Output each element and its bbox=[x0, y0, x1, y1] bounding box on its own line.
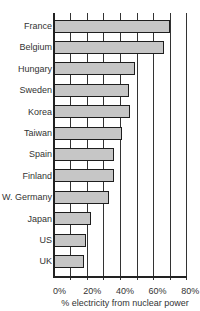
bar-spain bbox=[54, 148, 114, 161]
category-label: Spain bbox=[29, 149, 52, 159]
x-axis-title: % electricity from nuclear power bbox=[60, 298, 190, 308]
bar-belgium bbox=[54, 41, 164, 54]
category-label: UK bbox=[39, 256, 52, 266]
x-tick-label: 0% bbox=[53, 286, 66, 296]
bar-japan bbox=[54, 212, 91, 225]
category-label: Sweden bbox=[19, 85, 52, 95]
bar-france bbox=[54, 20, 170, 33]
category-label: W. Germany bbox=[2, 192, 52, 202]
category-label: Hungary bbox=[18, 64, 52, 74]
x-tick-label: 20% bbox=[83, 286, 101, 296]
bar-w-germany bbox=[54, 191, 109, 204]
bar-uk bbox=[54, 255, 84, 268]
x-axis-line bbox=[53, 276, 187, 278]
category-label: Japan bbox=[27, 214, 52, 224]
x-tick-label: 80% bbox=[181, 286, 199, 296]
category-label: Korea bbox=[28, 107, 52, 117]
x-tick-label: 40% bbox=[116, 286, 134, 296]
category-label: Belgium bbox=[19, 42, 52, 52]
bar-hungary bbox=[54, 62, 135, 75]
bar-finland bbox=[54, 169, 114, 182]
category-label: US bbox=[39, 235, 52, 245]
bar-us bbox=[54, 234, 86, 247]
x-tick-label: 60% bbox=[149, 286, 167, 296]
bar-sweden bbox=[54, 84, 129, 97]
category-label: Taiwan bbox=[24, 128, 52, 138]
nuclear-power-bar-chart: FranceBelgiumHungarySwedenKoreaTaiwanSpa… bbox=[0, 0, 200, 311]
category-label: France bbox=[24, 21, 52, 31]
gridline bbox=[170, 13, 171, 280]
category-label: Finland bbox=[22, 171, 52, 181]
bar-korea bbox=[54, 105, 130, 118]
gridline bbox=[186, 13, 187, 280]
bar-taiwan bbox=[54, 127, 122, 140]
